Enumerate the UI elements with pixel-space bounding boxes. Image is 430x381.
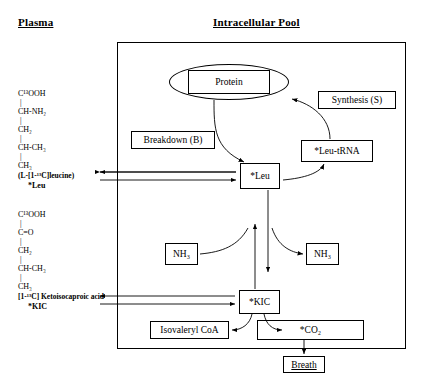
intracellular-pool-heading: Intracellular Pool bbox=[213, 16, 300, 28]
kic-name-label: [1-¹³C] Ketoisocaproic acid bbox=[18, 292, 104, 302]
nh3-output-box[interactable]: NH₃ bbox=[306, 243, 339, 265]
leucine-name-label: (L-[1-¹³C]leucine) bbox=[18, 171, 74, 181]
kic-bond-3: | bbox=[18, 256, 104, 264]
leu-box[interactable]: *Leu bbox=[240, 163, 280, 189]
breakdown-box[interactable]: Breakdown (B) bbox=[131, 131, 215, 149]
plasma-heading: Plasma bbox=[18, 16, 53, 28]
leucine-bond-4: | bbox=[18, 153, 74, 161]
kic-line-3: CH₂ bbox=[18, 246, 104, 256]
kic-bond-1: | bbox=[18, 220, 104, 228]
leu-trna-box[interactable]: *Leu-tRNA bbox=[301, 140, 373, 162]
isovaleryl-coa-box[interactable]: Isovaleryl CoA bbox=[150, 321, 229, 339]
leucine-bond-2: | bbox=[18, 117, 74, 125]
kic-line-2: C=O bbox=[18, 228, 104, 238]
kic-box[interactable]: *KIC bbox=[239, 290, 280, 314]
kic-tracer-label: *KIC bbox=[18, 302, 104, 312]
leucine-line-3: CH₂ bbox=[18, 125, 74, 135]
diagram-canvas: Plasma Intracellular Pool C¹³OOH | CH-NH… bbox=[0, 0, 430, 381]
leucine-line-4: CH-CH₃ bbox=[18, 143, 74, 153]
protein-box[interactable]: Protein bbox=[188, 70, 270, 94]
leucine-line-5: CH₃ bbox=[18, 161, 74, 171]
leucine-structure: C¹³OOH | CH-NH₂ | CH₂ | CH-CH₃ | CH₃ (L-… bbox=[18, 89, 74, 191]
kic-bond-4: | bbox=[18, 274, 104, 282]
kic-line-4: CH-CH₃ bbox=[18, 264, 104, 274]
kic-line-5: CH₃ bbox=[18, 282, 104, 292]
leucine-line-2: CH-NH₂ bbox=[18, 107, 74, 117]
nh3-input-box[interactable]: NH₃ bbox=[165, 243, 198, 265]
leucine-line-1: C¹³OOH bbox=[18, 89, 74, 99]
leucine-bond-3: | bbox=[18, 135, 74, 143]
kic-line-1: C¹³OOH bbox=[18, 210, 104, 220]
kic-structure: C¹³OOH | C=O | CH₂ | CH-CH₃ | CH₃ [1-¹³C… bbox=[18, 210, 104, 312]
breath-box[interactable]: Breath bbox=[283, 356, 325, 373]
synthesis-box[interactable]: Synthesis (S) bbox=[318, 91, 396, 109]
leucine-tracer-label: *Leu bbox=[18, 181, 74, 191]
leucine-bond-1: | bbox=[18, 99, 74, 107]
kic-bond-2: | bbox=[18, 238, 104, 246]
co2-box[interactable]: *CO₂ bbox=[257, 320, 364, 340]
